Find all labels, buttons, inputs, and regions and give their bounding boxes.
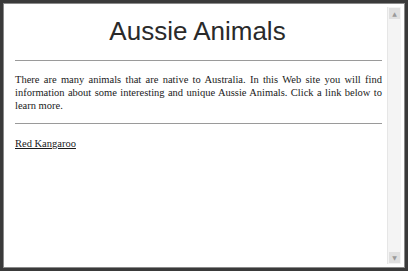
scroll-up-arrow-icon[interactable]: ▲ <box>389 8 400 19</box>
browser-window: Aussie Animals There are many animals th… <box>0 0 408 271</box>
divider-top <box>15 60 382 61</box>
vertical-scrollbar[interactable]: ▲ ▼ <box>387 7 401 264</box>
intro-paragraph: There are many animals that are native t… <box>15 73 382 112</box>
link-red-kangaroo[interactable]: Red Kangaroo <box>15 138 76 149</box>
page-title: Aussie Animals <box>7 7 388 46</box>
scroll-down-arrow-icon[interactable]: ▼ <box>389 252 400 263</box>
page-viewport: Aussie Animals There are many animals th… <box>7 7 388 264</box>
divider-bottom <box>15 123 382 124</box>
